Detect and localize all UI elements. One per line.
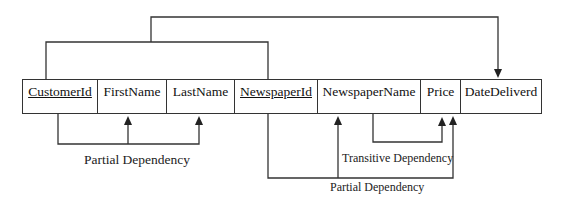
arrow-up-icon	[124, 116, 132, 125]
arrow-down-icon	[494, 69, 502, 78]
transitive-dependency-label: Transitive Dependency	[342, 151, 453, 166]
arrow-up-icon	[195, 116, 203, 125]
partial-dependency-1-label: Partial Dependency	[84, 152, 190, 168]
partial-dependency-2-connector	[268, 114, 457, 178]
full-dependency-connector	[46, 17, 502, 79]
dependency-diagram: CustomerId FirstName LastName NewspaperI…	[0, 0, 563, 203]
attribute-newspaper-id: NewspaperId	[234, 79, 318, 114]
arrow-up-icon	[438, 117, 446, 126]
partial-dependency-2-label: Partial Dependency	[330, 180, 424, 195]
attribute-price: Price	[420, 79, 461, 114]
attribute-first-name: FirstName	[97, 79, 167, 114]
partial-dependency-1-connector	[58, 114, 203, 144]
attribute-customer-id: CustomerId	[22, 79, 98, 114]
attribute-newspaper-name: NewspaperName	[317, 79, 421, 114]
attribute-date-delivered: DateDeliverd	[460, 79, 542, 114]
arrow-up-icon	[449, 116, 457, 125]
transitive-dependency-connector	[373, 114, 446, 142]
arrow-up-icon	[334, 116, 342, 125]
attribute-last-name: LastName	[166, 79, 235, 114]
